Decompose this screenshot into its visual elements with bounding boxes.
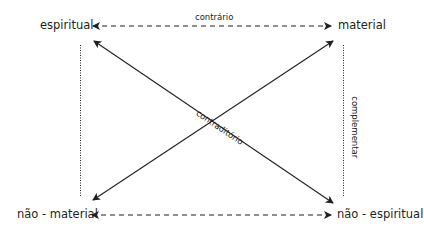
node-nao-espiritual: não - espiritual [337,209,423,221]
label-contrario: contrário [195,13,233,22]
label-complementar: complementar [351,96,360,158]
node-espiritual: espiritual [40,20,94,32]
node-nao-material: não - material [17,209,98,221]
node-material: material [338,20,386,32]
